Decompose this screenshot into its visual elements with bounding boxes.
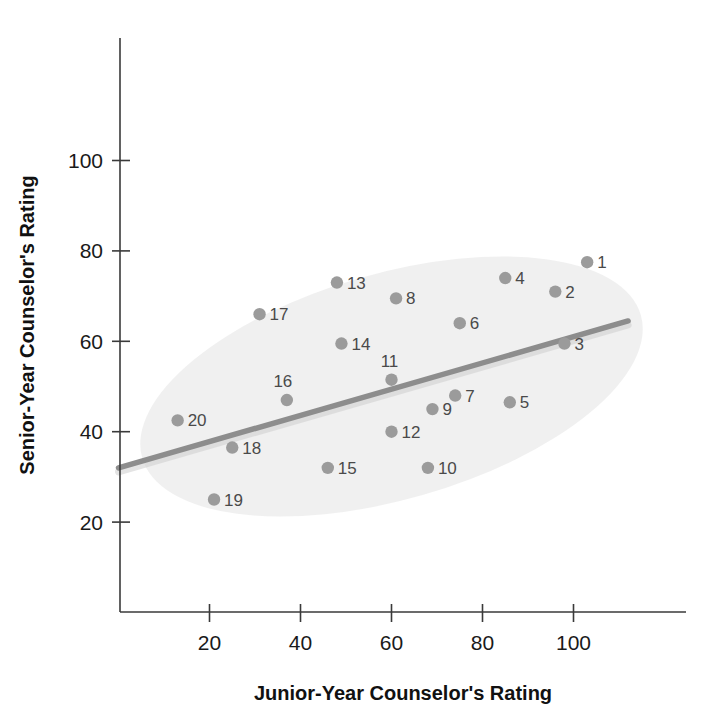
x-tick-label-100: 100	[556, 631, 591, 654]
point-marker-6	[454, 317, 466, 329]
point-label-4: 4	[515, 269, 524, 288]
point-label-18: 18	[242, 439, 261, 458]
point-marker-15	[322, 462, 334, 474]
plot-canvas: 20406080100 20406080100 1234567891011121…	[0, 0, 719, 727]
point-marker-2	[549, 285, 561, 297]
y-tick-label-60: 60	[80, 330, 103, 353]
point-marker-17	[253, 308, 265, 320]
y-tick-label-80: 80	[80, 239, 103, 262]
x-axis-title: Junior-Year Counselor's Rating	[254, 682, 552, 704]
point-marker-3	[558, 337, 570, 349]
point-label-13: 13	[347, 274, 366, 293]
point-label-16: 16	[273, 372, 292, 391]
x-tick-label-80: 80	[471, 631, 494, 654]
point-label-19: 19	[224, 491, 243, 510]
point-label-5: 5	[520, 393, 529, 412]
point-label-12: 12	[402, 423, 421, 442]
point-label-2: 2	[565, 283, 574, 302]
point-marker-13	[331, 276, 343, 288]
point-label-14: 14	[351, 335, 370, 354]
point-label-3: 3	[574, 335, 583, 354]
scatter-plot-figure: 20406080100 20406080100 1234567891011121…	[0, 0, 719, 727]
point-label-20: 20	[188, 411, 207, 430]
point-marker-8	[390, 292, 402, 304]
point-marker-14	[335, 337, 347, 349]
point-label-17: 17	[270, 305, 289, 324]
point-marker-12	[385, 426, 397, 438]
point-label-11: 11	[381, 352, 399, 371]
point-marker-20	[171, 414, 183, 426]
point-marker-5	[504, 396, 516, 408]
point-label-15: 15	[338, 459, 357, 478]
y-tick-label-100: 100	[68, 149, 103, 172]
point-marker-19	[208, 493, 220, 505]
x-tick-label-40: 40	[289, 631, 312, 654]
point-label-9: 9	[442, 400, 451, 419]
x-tick-label-20: 20	[198, 631, 221, 654]
point-marker-16	[281, 394, 293, 406]
y-tick-label-20: 20	[80, 511, 103, 534]
point-marker-11	[385, 374, 397, 386]
point-marker-1	[581, 256, 593, 268]
point-marker-4	[499, 272, 511, 284]
point-label-8: 8	[406, 289, 415, 308]
point-label-10: 10	[438, 459, 457, 478]
point-marker-10	[422, 462, 434, 474]
y-axis-title: Senior-Year Counselor's Rating	[16, 175, 38, 474]
point-label-1: 1	[597, 253, 606, 272]
point-marker-18	[226, 441, 238, 453]
point-marker-9	[426, 403, 438, 415]
point-label-6: 6	[470, 314, 479, 333]
point-label-7: 7	[465, 387, 474, 406]
y-tick-label-40: 40	[80, 420, 103, 443]
x-tick-label-60: 60	[380, 631, 403, 654]
